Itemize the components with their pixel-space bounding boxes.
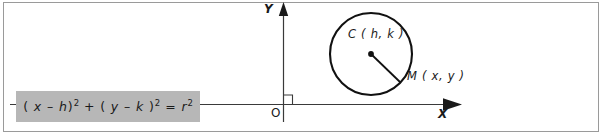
equation-var-k: k [136, 100, 144, 115]
x-axis-label: X [438, 107, 447, 121]
equation-var-y: y [111, 100, 119, 115]
circle-center-label: C ( h, k ) [348, 27, 404, 41]
equation-open-paren-1: ( [23, 100, 34, 115]
equation-exponent-3: 2 [187, 98, 192, 108]
equation-plus: + [79, 100, 100, 115]
circle-point-label: M ( x, y ) [407, 69, 465, 83]
equation-close-paren-2: ) [144, 100, 155, 115]
circle-equation-text: ( x – h)2 + ( y – k )2 = r2 [23, 98, 193, 114]
equation-equals: = [160, 100, 181, 115]
equation-var-h: h [59, 100, 68, 115]
figure-canvas: Y X O C ( h, k ) M ( x, y ) ( x – h)2 + … [0, 0, 603, 136]
equation-minus-1: – [42, 100, 59, 115]
equation-open-paren-2: ( [100, 100, 111, 115]
y-axis-label: Y [264, 2, 273, 16]
equation-minus-2: – [119, 100, 136, 115]
origin-label: O [271, 106, 280, 120]
equation-callout-box: ( x – h)2 + ( y – k )2 = r2 [16, 91, 200, 122]
equation-var-x: x [34, 100, 42, 115]
